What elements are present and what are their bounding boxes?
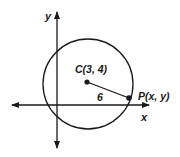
center-label: C(3, 4) xyxy=(75,63,108,75)
x-axis-label: x xyxy=(140,111,148,123)
point-label: P(x, y) xyxy=(138,90,170,102)
center-point xyxy=(84,79,89,84)
point-p xyxy=(126,95,132,101)
y-axis-label: y xyxy=(44,10,52,22)
radius-segment xyxy=(87,82,129,98)
radius-label: 6 xyxy=(97,91,103,103)
coordinate-diagram: y x C(3, 4) 6 P(x, y) xyxy=(0,0,180,157)
